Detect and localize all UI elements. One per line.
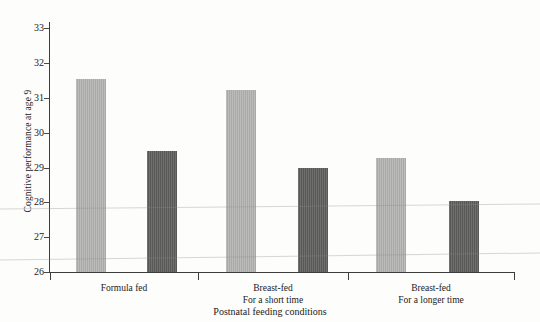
- bar-chart: Cognitive performance at age 9 33 32 31 …: [0, 0, 540, 322]
- y-axis-tick-labels: 33 32 31 30 29 28 27 26: [20, 0, 44, 322]
- bar-group3-dark: [449, 201, 479, 272]
- y-tick-label: 29: [22, 163, 44, 173]
- bar-group1-dark: [147, 151, 177, 272]
- x-group-separator-tick: [198, 273, 199, 280]
- bar-group3-light: [376, 158, 406, 272]
- x-group-label-3-line1: Breast-fed: [348, 283, 514, 295]
- x-axis-title: Postnatal feeding conditions: [0, 306, 540, 317]
- x-group-label-3-line2: For a longer time: [348, 295, 514, 307]
- plot-area: [49, 22, 515, 272]
- y-tick-label: 30: [22, 128, 44, 138]
- y-tick-label: 27: [22, 232, 44, 242]
- x-group-separator-tick: [348, 273, 349, 280]
- x-axis-line: [49, 272, 515, 273]
- x-group-label-2: Breast-fed For a short time: [198, 283, 348, 306]
- x-group-separator-tick: [514, 273, 515, 280]
- x-group-label-2-line1: Breast-fed: [198, 283, 348, 295]
- x-group-separator-tick: [50, 273, 51, 280]
- x-group-label-3: Breast-fed For a longer time: [348, 283, 514, 306]
- x-group-label-2-line2: For a short time: [198, 295, 348, 307]
- y-tick-label: 31: [22, 93, 44, 103]
- bar-group2-dark: [298, 168, 328, 272]
- y-tick-label: 26: [22, 267, 44, 277]
- x-group-label-1: Formula fed: [50, 283, 198, 295]
- x-group-label-1-line1: Formula fed: [50, 283, 198, 295]
- bar-group1-light: [76, 79, 106, 272]
- y-tick-label: 32: [22, 58, 44, 68]
- y-tick-label: 33: [22, 23, 44, 33]
- y-tick-label: 28: [22, 197, 44, 207]
- bar-group2-light: [226, 90, 256, 272]
